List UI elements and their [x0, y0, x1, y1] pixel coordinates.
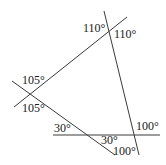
- line-c: [12, 81, 115, 155]
- angle-label-right-100-upper: 100°: [136, 119, 159, 133]
- angle-label-top-right: 110°: [114, 27, 137, 41]
- angle-label-bottom-left-30: 30°: [54, 121, 71, 135]
- angle-label-top-left: 110°: [83, 21, 106, 35]
- angle-label-left-upper: 105°: [22, 73, 45, 87]
- angle-label-left-lower: 105°: [22, 101, 45, 115]
- line-a: [14, 17, 127, 107]
- geometry-diagram: 110° 110° 105° 105° 30° 30° 100° 100°: [0, 0, 166, 165]
- angle-label-right-100-lower: 100°: [113, 144, 136, 158]
